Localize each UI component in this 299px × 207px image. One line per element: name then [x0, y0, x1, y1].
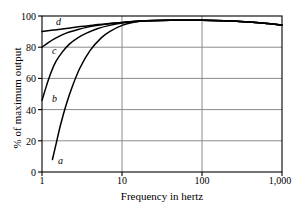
curve-c: [42, 20, 282, 47]
x-axis-title: Frequency in hertz: [42, 190, 282, 202]
curve-label-a: a: [58, 156, 63, 166]
plot-frame: [42, 16, 282, 172]
curve-label-b: b: [52, 94, 57, 104]
axis-frame: [42, 16, 282, 172]
y-tick-label-80: 80: [10, 43, 36, 53]
y-tick-label-40: 40: [10, 106, 36, 116]
y-tick-label-20: 20: [10, 137, 36, 147]
y-tick-label-60: 60: [10, 74, 36, 84]
curve-a: [52, 20, 282, 159]
frequency-response-chart: % of maximum output 100 80 60 40 20 0 1 …: [0, 0, 299, 207]
curve-b: [42, 20, 282, 100]
x-tick-label-10: 10: [102, 176, 142, 186]
y-tick-label-100: 100: [10, 12, 36, 22]
grid-layer: [42, 16, 282, 172]
x-tick-label-1000: 1,000: [260, 176, 299, 186]
curve-label-c: c: [52, 46, 56, 56]
x-tick-label-100: 100: [182, 176, 222, 186]
curve-layer: [42, 20, 282, 159]
curve-label-d: d: [56, 17, 61, 27]
y-axis-title: % of maximum output: [11, 18, 23, 178]
x-tick-label-1: 1: [22, 176, 62, 186]
